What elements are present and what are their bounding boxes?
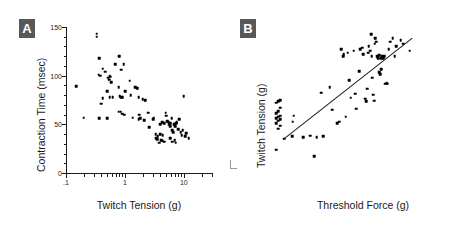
data-point bbox=[391, 37, 394, 40]
data-point bbox=[309, 135, 312, 138]
panel-b-plot-area bbox=[272, 27, 435, 173]
panel-a-x-tick bbox=[66, 174, 67, 178]
data-point bbox=[380, 68, 383, 71]
panel-a-y-tick bbox=[62, 76, 66, 77]
panel-b: B .1110101001000<20 Threshold Force (g) … bbox=[235, 0, 470, 232]
data-point bbox=[75, 85, 78, 88]
data-point bbox=[377, 57, 380, 60]
data-point bbox=[118, 55, 121, 58]
figure-container: A 050100150.1110 Twitch Tension (g) Cont… bbox=[0, 0, 470, 232]
data-point bbox=[162, 134, 165, 137]
page-edge-artifact-vertical bbox=[230, 160, 231, 169]
panel-a-x-minor-tick bbox=[175, 174, 176, 177]
data-point bbox=[129, 94, 132, 97]
data-point bbox=[361, 47, 364, 50]
panel-a-y-minor-tick bbox=[64, 95, 66, 96]
data-point bbox=[120, 69, 123, 72]
panel-a-x-axis-title: Twitch Tension (g) bbox=[97, 199, 181, 211]
data-point bbox=[147, 111, 150, 114]
panel-a-x-axis-line bbox=[66, 173, 213, 174]
data-point bbox=[302, 136, 305, 139]
panel-a-y-minor-tick bbox=[64, 85, 66, 86]
panel-b-label: B bbox=[240, 19, 256, 38]
offscale-data-point bbox=[277, 110, 280, 113]
data-point bbox=[354, 92, 357, 95]
data-point bbox=[183, 95, 186, 98]
panel-a-x-minor-tick bbox=[212, 174, 213, 177]
data-point bbox=[408, 50, 411, 53]
data-point bbox=[348, 79, 351, 82]
page-edge-artifact bbox=[230, 168, 237, 169]
panel-a-y-axis-line bbox=[66, 27, 67, 174]
data-point bbox=[187, 137, 190, 140]
panel-a-x-minor-tick bbox=[107, 174, 108, 177]
data-point bbox=[101, 68, 104, 71]
data-point bbox=[180, 134, 183, 137]
panel-a-y-minor-tick bbox=[64, 105, 66, 106]
panel-a-x-minor-tick bbox=[94, 174, 95, 177]
data-point bbox=[82, 116, 85, 119]
data-point bbox=[293, 114, 296, 117]
panel-a-x-minor-tick bbox=[160, 174, 161, 177]
panel-a-x-minor-tick bbox=[119, 174, 120, 177]
data-point bbox=[122, 63, 125, 66]
data-point bbox=[369, 50, 372, 53]
data-point bbox=[153, 116, 156, 119]
panel-a-y-axis-title: Contraction Time (msec) bbox=[35, 58, 47, 172]
panel-a-x-minor-tick bbox=[122, 174, 123, 177]
panel-a-y-minor-tick bbox=[64, 154, 66, 155]
offscale-data-point bbox=[279, 124, 282, 127]
data-point bbox=[144, 99, 147, 102]
data-point bbox=[182, 129, 185, 132]
panel-a-x-tick bbox=[125, 174, 126, 178]
data-point bbox=[393, 55, 396, 58]
data-point bbox=[98, 57, 101, 60]
offscale-data-point bbox=[279, 99, 282, 102]
data-point bbox=[176, 121, 179, 124]
panel-a-x-tick-label: .1 bbox=[63, 179, 69, 186]
panel-a-x-minor-tick bbox=[202, 174, 203, 177]
data-point bbox=[169, 125, 172, 128]
panel-a-x-tick-label: 10 bbox=[180, 179, 188, 186]
data-point bbox=[291, 120, 294, 123]
data-point bbox=[322, 135, 325, 138]
data-point bbox=[171, 141, 174, 144]
data-point bbox=[185, 132, 188, 135]
data-point bbox=[178, 118, 181, 121]
data-point bbox=[128, 79, 131, 82]
data-point bbox=[123, 113, 126, 116]
panel-a-y-minor-tick bbox=[64, 46, 66, 47]
panel-a-y-minor-tick bbox=[64, 115, 66, 116]
data-point bbox=[315, 136, 318, 139]
data-point bbox=[137, 96, 140, 99]
panel-a-y-tick-label: 150 bbox=[38, 24, 62, 31]
data-point bbox=[170, 117, 173, 120]
panel-a-y-minor-tick bbox=[64, 163, 66, 164]
panel-a-x-minor-tick bbox=[112, 174, 113, 177]
data-point bbox=[387, 48, 390, 51]
data-point bbox=[320, 91, 323, 94]
data-point bbox=[138, 118, 141, 121]
data-point bbox=[170, 122, 173, 125]
panel-b-x-axis-title: Threshold Force (g) bbox=[317, 199, 409, 211]
data-point bbox=[169, 137, 172, 140]
data-point bbox=[122, 96, 125, 99]
data-point bbox=[131, 116, 134, 119]
data-point bbox=[343, 53, 346, 56]
offscale-data-point bbox=[277, 127, 280, 130]
data-point bbox=[109, 75, 112, 78]
data-point bbox=[375, 40, 378, 43]
panel-a-label: A bbox=[19, 19, 35, 38]
offscale-data-point bbox=[279, 118, 282, 121]
panel-a-plot-area bbox=[66, 27, 212, 173]
panel-a: A 050100150.1110 Twitch Tension (g) Cont… bbox=[0, 0, 235, 232]
data-point bbox=[99, 74, 102, 77]
panel-a-x-minor-tick bbox=[166, 174, 167, 177]
data-point bbox=[106, 90, 109, 93]
panel-a-x-minor-tick bbox=[116, 174, 117, 177]
data-point bbox=[358, 70, 361, 73]
data-point bbox=[328, 86, 331, 89]
data-point bbox=[395, 45, 398, 48]
data-point bbox=[371, 76, 374, 79]
data-point bbox=[372, 93, 375, 96]
